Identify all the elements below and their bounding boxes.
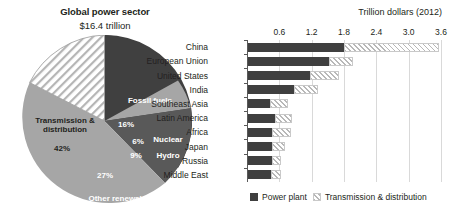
category-tickmark	[244, 68, 247, 69]
pie-value-transmission-distribution: 42%	[41, 145, 83, 154]
bar-row	[248, 57, 442, 66]
bar-segment-transmission-distribution	[272, 142, 284, 151]
bar-segment-transmission-distribution	[344, 43, 439, 52]
pie-label-nuclear: Nuclear	[148, 136, 188, 145]
bar-segment-power-plant	[248, 85, 294, 94]
tick-label-1.2: 1.2	[301, 27, 323, 37]
transmission-distribution-swatch-icon	[313, 193, 321, 201]
pie-label-hydro: Hydro	[150, 152, 186, 161]
bar-segment-transmission-distribution	[270, 99, 289, 108]
category-tickmark	[244, 40, 247, 41]
bar-category-label-european-union: European Union	[147, 57, 208, 66]
bar-chart-panel: Trillion dollars (2012) 0.61.21.82.43.03…	[228, 0, 458, 215]
bar-row	[248, 85, 442, 94]
bar-segment-transmission-distribution	[271, 170, 281, 179]
bar-category-label-russia: Russia	[182, 157, 208, 166]
pie-label-other-renewables: Other renewables	[79, 195, 165, 204]
pie-value-fossil-fuels: 16%	[113, 121, 139, 130]
pie-chart-title: Global power sector	[0, 6, 210, 17]
bar-segment-transmission-distribution	[294, 85, 318, 94]
bar-segment-power-plant	[248, 99, 270, 108]
bar-segment-power-plant	[248, 114, 275, 123]
bar-segment-power-plant	[248, 128, 272, 137]
bar-row	[248, 128, 442, 137]
category-tickmark	[244, 168, 247, 169]
bar-category-label-africa: Africa	[186, 128, 208, 137]
bar-category-label-latin-america: Latin America	[157, 114, 209, 123]
bar-row	[248, 71, 442, 80]
bar-category-label-japan: Japan	[185, 143, 208, 152]
bar-row	[248, 99, 442, 108]
bar-segment-power-plant	[248, 170, 271, 179]
bar-row	[248, 43, 442, 52]
category-tickmark	[244, 154, 247, 155]
category-tickmark	[244, 111, 247, 112]
bar-segment-power-plant	[248, 43, 344, 52]
legend-item-power-plant: Power plant	[250, 192, 307, 202]
bar-segment-power-plant	[248, 57, 329, 66]
tick-label-3.6: 3.6	[430, 27, 452, 37]
pie-chart-subtitle: $16.4 trillion	[0, 20, 210, 31]
category-tickmark	[244, 97, 247, 98]
bar-segment-power-plant	[248, 71, 310, 80]
bar-segment-transmission-distribution	[275, 114, 292, 123]
bar-category-label-united-states: United States	[157, 72, 208, 81]
bar-row	[248, 170, 442, 179]
bar-row	[248, 114, 442, 123]
bar-category-label-middle-east: Middle East	[164, 171, 208, 180]
bar-segment-transmission-distribution	[272, 128, 291, 137]
bar-segment-power-plant	[248, 142, 272, 151]
bar-segment-power-plant	[248, 156, 272, 165]
bar-chart-plot-area: 0.61.21.82.43.03.6ChinaEuropean UnionUni…	[247, 40, 441, 182]
category-tickmark	[244, 54, 247, 55]
bar-category-label-india: India	[190, 86, 208, 95]
bar-category-label-china: China	[186, 43, 208, 52]
tick-label-0.6: 0.6	[268, 27, 290, 37]
bar-row	[248, 142, 442, 151]
tick-label-3: 3.0	[398, 27, 420, 37]
bar-chart-axis-title: Trillion dollars (2012)	[358, 7, 442, 17]
pie-value-other-renewables: 27%	[91, 172, 119, 181]
legend-item-transmission-distribution: Transmission & distribution	[313, 192, 427, 202]
bar-chart-legend: Power plant Transmission & distribution	[250, 190, 456, 204]
pie-value-hydro: 9%	[124, 152, 148, 161]
legend-label-power-plant: Power plant	[262, 192, 307, 202]
bar-segment-transmission-distribution	[310, 71, 339, 80]
bar-segment-transmission-distribution	[329, 57, 353, 66]
bar-category-label-southeast-asia: Southeast Asia	[151, 100, 208, 109]
bar-segment-transmission-distribution	[272, 156, 281, 165]
category-tickmark	[244, 83, 247, 84]
pie-value-nuclear: 6%	[127, 138, 149, 147]
power-plant-swatch-icon	[250, 193, 258, 201]
tick-label-2.4: 2.4	[365, 27, 387, 37]
category-tickmark	[244, 125, 247, 126]
bar-row	[248, 156, 442, 165]
tick-label-1.8: 1.8	[333, 27, 355, 37]
category-tickmark	[244, 139, 247, 140]
pie-label-transmission-distribution: Transmission & distribution	[25, 117, 105, 135]
figure-root: Global power sector $16.4 trillion	[0, 0, 458, 215]
legend-label-transmission-distribution: Transmission & distribution	[325, 192, 427, 202]
